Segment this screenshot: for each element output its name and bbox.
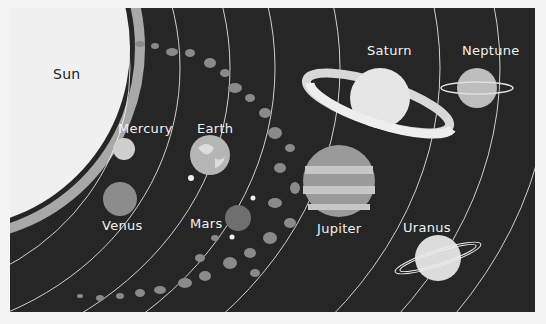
uranus [393,235,484,281]
moon [188,175,194,181]
mercury [113,138,135,160]
solar-system-graphic [10,8,535,312]
venus [103,182,137,216]
earth-label: Earth [197,121,233,136]
jupiter-label: Jupiter [317,221,361,236]
solar-system-illustration: Sun Mercury Venus Earth Mars Jupiter Sat… [10,8,535,312]
uranus-label: Uranus [403,220,451,235]
mercury-label: Mercury [118,121,173,136]
mars [225,205,251,231]
earth [190,135,230,175]
mars-label: Mars [190,216,223,231]
sun-label: Sun [53,66,81,82]
saturn-label: Saturn [367,43,412,58]
saturn [300,61,455,145]
venus-label: Venus [102,218,143,233]
neptune [441,68,513,108]
neptune-label: Neptune [462,43,520,58]
